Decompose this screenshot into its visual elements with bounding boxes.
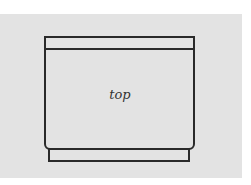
container-rim-line <box>44 48 195 50</box>
container-base-plinth <box>48 148 190 162</box>
top-label: top <box>0 87 240 102</box>
